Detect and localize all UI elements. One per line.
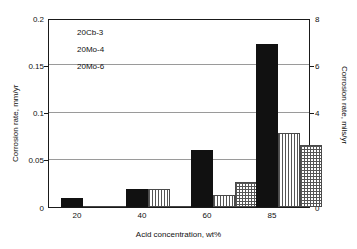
bar-20Mo-4-60	[213, 195, 235, 207]
y-axis-left-tick-015: 0.15	[28, 63, 44, 71]
x-axis-tick-20: 20	[47, 212, 107, 220]
legend-swatch-vstripe-icon	[58, 45, 71, 56]
bar-20Mo-6-20	[105, 206, 127, 207]
y-axis-right-tick-6: 6	[315, 63, 319, 71]
x-axis-title: Acid concentration, wt%	[0, 231, 357, 239]
legend-swatch-solid-icon	[58, 28, 71, 39]
bar-group-85	[256, 20, 312, 207]
bar-20Cb-3-20	[61, 198, 83, 207]
x-axis-tick-40: 40	[112, 212, 172, 220]
bar-20Mo-4-40	[148, 189, 170, 207]
bar-20Cb-3-40	[126, 189, 148, 207]
y-axis-right-tick-4: 4	[315, 110, 319, 118]
y-axis-left-title: Corrosion rate, mm/yr	[12, 85, 20, 162]
y-axis-left-tick-01: 0.1	[33, 110, 44, 118]
bar-group-40	[126, 20, 182, 207]
bar-20Cb-3-85	[256, 44, 278, 207]
legend-label-20Mo-4: 20Mo-4	[77, 46, 104, 54]
y-axis-left-tick-0: 0	[40, 205, 44, 213]
x-axis-tick-85: 85	[242, 212, 302, 220]
bar-20Mo-6-85	[300, 145, 322, 207]
legend-label-20Mo-6: 20Mo-6	[77, 63, 104, 71]
bar-20Mo-4-85	[278, 133, 300, 207]
legend-swatch-grid-icon	[58, 62, 71, 73]
bar-group-60	[191, 20, 247, 207]
y-axis-right-title: Corrosion rate, mils/yr	[340, 66, 348, 144]
x-axis-tick-60: 60	[177, 212, 237, 220]
legend-item-20Mo-4: 20Mo-4	[58, 43, 104, 57]
plot-area: 20Cb-3 20Mo-4 20Mo-6	[48, 19, 310, 208]
chart-figure: Corrosion rate, mm/yr Corrosion rate, mi…	[0, 0, 357, 249]
bar-20Cb-3-60	[191, 150, 213, 207]
bar-20Mo-6-40	[170, 206, 192, 207]
bar-20Mo-4-20	[83, 206, 105, 207]
legend-item-20Mo-6: 20Mo-6	[58, 60, 104, 74]
legend-label-20Cb-3: 20Cb-3	[77, 29, 103, 37]
chart-legend: 20Cb-3 20Mo-4 20Mo-6	[58, 26, 104, 77]
legend-item-20Cb-3: 20Cb-3	[58, 26, 104, 40]
y-axis-left-tick-02: 0.2	[33, 16, 44, 24]
y-axis-right-tick-8: 8	[315, 16, 319, 24]
y-axis-left-tick-005: 0.05	[28, 157, 44, 165]
bar-20Mo-6-60	[235, 182, 257, 208]
